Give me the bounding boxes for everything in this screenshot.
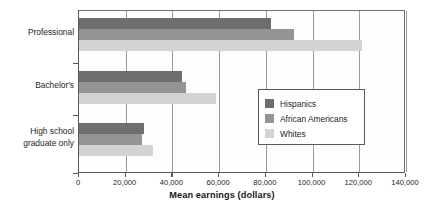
y-axis-label-line: graduate only (0, 138, 74, 150)
x-axis-title: Mean earnings (dollars) (0, 190, 430, 200)
x-axis-tick (171, 173, 172, 177)
y-axis-label: High schoolgraduate only (0, 126, 74, 149)
legend-label: Hispanics (280, 99, 316, 109)
bar (79, 93, 216, 104)
legend-item: Whites (265, 126, 364, 141)
chart-legend: HispanicsAfrican AmericansWhites (258, 89, 365, 145)
x-axis-tick-label: 140,000 (383, 178, 427, 187)
x-axis-tick (125, 173, 126, 177)
y-axis-tick (73, 63, 78, 64)
bar (79, 82, 186, 93)
x-axis-tick-label: 40,000 (149, 178, 193, 187)
bar (79, 18, 271, 29)
x-axis-tick (218, 173, 219, 177)
x-axis-tick (78, 173, 79, 177)
y-axis-tick (73, 115, 78, 116)
bar (79, 29, 294, 40)
legend-label: African Americans (280, 114, 348, 124)
x-axis-tick-label: 20,000 (103, 178, 147, 187)
bar (79, 134, 142, 145)
y-axis-label-line: Professional (0, 27, 74, 39)
bar (79, 40, 362, 51)
x-axis-tick-label: 60,000 (196, 178, 240, 187)
y-axis-label-line: Bachelor's (0, 80, 74, 92)
x-axis-tick (265, 173, 266, 177)
x-axis-tick (405, 173, 406, 177)
legend-swatch-icon (265, 114, 274, 123)
legend-label: Whites (280, 129, 306, 139)
legend-swatch-icon (265, 99, 274, 108)
x-axis-tick-label: 120,000 (336, 178, 380, 187)
legend-items: HispanicsAfrican AmericansWhites (265, 96, 364, 141)
x-axis-title-text: Mean earnings (dollars) (169, 190, 274, 200)
gridline (406, 11, 407, 172)
y-axis-label: Professional (0, 27, 74, 39)
bar (79, 145, 153, 156)
bar (79, 123, 144, 134)
y-axis-label: Bachelor's (0, 80, 74, 92)
x-axis-tick-label: 100,000 (290, 178, 334, 187)
x-axis-tick-label: 0 (56, 178, 100, 187)
legend-item: African Americans (265, 111, 364, 126)
legend-item: Hispanics (265, 96, 364, 111)
y-axis-label-line: High school (0, 126, 74, 138)
x-axis-tick (358, 173, 359, 177)
bar (79, 71, 182, 82)
bar-chart: ProfessionalBachelor'sHigh schoolgraduat… (0, 0, 430, 209)
x-axis-tick (312, 173, 313, 177)
x-axis-tick-label: 80,000 (243, 178, 287, 187)
legend-swatch-icon (265, 129, 274, 138)
